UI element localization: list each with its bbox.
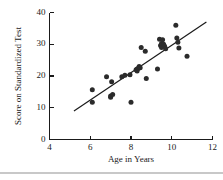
x-tick-label: 4: [47, 142, 52, 152]
scatter-plot-figure: 4681012010203040Age in YearsScore on Sta…: [0, 0, 223, 180]
data-point: [138, 65, 143, 70]
data-point: [175, 40, 180, 45]
data-point: [104, 74, 109, 79]
x-tick-label: 12: [208, 142, 217, 152]
data-point: [173, 23, 178, 28]
data-point: [139, 45, 144, 50]
data-point: [122, 73, 127, 78]
y-tick-label: 0: [41, 134, 46, 144]
y-tick-label: 10: [37, 102, 47, 112]
data-point: [160, 37, 165, 42]
x-axis-title: Age in Years: [108, 154, 155, 164]
data-point: [144, 76, 149, 81]
data-point: [174, 35, 179, 40]
x-tick-label: 6: [88, 142, 93, 152]
data-point: [90, 100, 95, 105]
y-tick-label: 40: [37, 7, 47, 17]
data-point: [90, 87, 95, 92]
y-tick-label: 20: [37, 70, 47, 80]
data-point: [110, 92, 115, 97]
x-tick-label: 8: [129, 142, 134, 152]
plot-area: 4681012010203040Age in YearsScore on Sta…: [13, 7, 217, 164]
data-point: [129, 100, 134, 105]
y-axis-title: Score on Standardized Test: [13, 27, 23, 125]
chart-canvas: 4681012010203040Age in YearsScore on Sta…: [0, 0, 223, 180]
data-point: [176, 46, 181, 51]
data-point: [163, 46, 168, 51]
y-tick-label: 30: [37, 38, 47, 48]
data-point: [109, 79, 114, 84]
data-point: [143, 49, 148, 54]
data-point: [127, 72, 132, 77]
data-point: [155, 67, 160, 72]
footer-divider: [0, 172, 223, 174]
data-point: [185, 54, 190, 59]
x-tick-label: 10: [167, 142, 177, 152]
